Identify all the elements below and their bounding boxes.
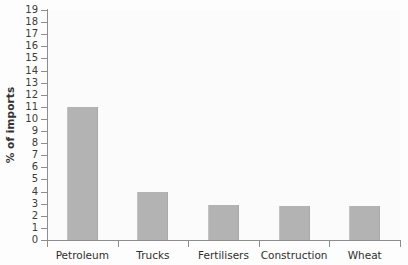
y-tick-mark — [41, 71, 47, 72]
bar-fertilisers — [208, 205, 239, 240]
x-tick-mark — [400, 241, 401, 247]
y-tick-label: 3 — [16, 199, 38, 209]
y-axis-title-text: % of imports — [4, 87, 16, 164]
y-tick-mark — [41, 216, 47, 217]
y-axis-line — [47, 9, 48, 241]
y-tick-label: 9 — [16, 126, 38, 136]
x-tick-mark — [259, 241, 260, 247]
y-tick-label: 13 — [16, 78, 38, 88]
y-tick-label: 18 — [16, 17, 38, 27]
bar-wheat — [349, 206, 380, 240]
bar-petroleum — [67, 107, 98, 240]
y-tick-mark — [41, 119, 47, 120]
x-tick-mark — [47, 241, 48, 247]
y-tick-mark — [41, 10, 47, 11]
x-tick-mark — [118, 241, 119, 247]
y-tick-label: 16 — [16, 41, 38, 51]
y-tick-mark — [41, 192, 47, 193]
y-tick-mark — [41, 143, 47, 144]
y-tick-mark — [41, 131, 47, 132]
y-tick-label: 5 — [16, 174, 38, 184]
y-tick-mark — [41, 58, 47, 59]
y-tick-label: 6 — [16, 162, 38, 172]
x-axis-line — [47, 240, 401, 241]
y-tick-label: 19 — [16, 5, 38, 15]
x-tick-label: Trucks — [118, 249, 189, 261]
x-tick-mark — [188, 241, 189, 247]
y-tick-label: 7 — [16, 150, 38, 160]
y-tick-label: 12 — [16, 90, 38, 100]
y-tick-mark — [41, 204, 47, 205]
y-tick-mark — [41, 95, 47, 96]
y-tick-label: 2 — [16, 211, 38, 221]
y-tick-mark — [41, 46, 47, 47]
y-tick-label: 17 — [16, 29, 38, 39]
y-tick-label: 0 — [16, 235, 38, 245]
bar-chart: % of imports 012345678910111213141516171… — [0, 0, 408, 265]
x-tick-label: Petroleum — [47, 249, 118, 261]
bar-trucks — [137, 192, 168, 240]
y-tick-mark — [41, 83, 47, 84]
y-tick-label: 15 — [16, 53, 38, 63]
y-tick-label: 10 — [16, 114, 38, 124]
y-tick-label: 8 — [16, 138, 38, 148]
x-tick-label: Fertilisers — [188, 249, 259, 261]
x-tick-label: Construction — [259, 249, 330, 261]
y-tick-label: 14 — [16, 66, 38, 76]
y-tick-mark — [41, 107, 47, 108]
y-tick-mark — [41, 22, 47, 23]
y-tick-mark — [41, 228, 47, 229]
x-tick-label: Wheat — [329, 249, 400, 261]
y-tick-label: 1 — [16, 223, 38, 233]
y-tick-mark — [41, 167, 47, 168]
y-tick-label: 4 — [16, 187, 38, 197]
x-tick-mark — [329, 241, 330, 247]
y-tick-label: 11 — [16, 102, 38, 112]
y-tick-mark — [41, 179, 47, 180]
y-tick-mark — [41, 34, 47, 35]
y-tick-mark — [41, 155, 47, 156]
bar-construction — [279, 206, 310, 241]
